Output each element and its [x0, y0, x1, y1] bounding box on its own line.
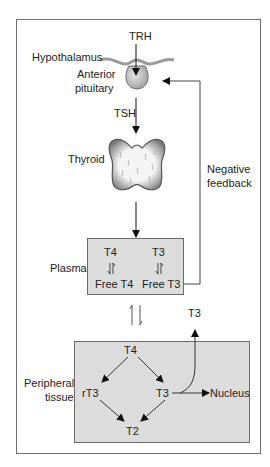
pituitary-label: pituitary — [75, 82, 114, 95]
plasma-free-t4: Free T4 — [95, 278, 133, 291]
peripheral-label: Peripheral — [24, 377, 74, 390]
nucleus-label: Nucleus — [210, 387, 250, 400]
anterior-label: Anterior — [77, 68, 116, 81]
plasma-t4-equilibrium — [108, 263, 115, 274]
plasma-t3: T3 — [152, 246, 165, 259]
thyroid-label: Thyroid — [68, 153, 105, 166]
t3-export-label: T3 — [188, 307, 201, 320]
rt3-to-t2-arrow — [100, 400, 124, 421]
negative-label: Negative — [207, 163, 250, 176]
hypothalamus-label: Hypothalamus — [32, 51, 102, 64]
plasma-label: Plasma — [50, 262, 87, 275]
feedback-label: feedback — [207, 177, 252, 190]
tissue-label: tissue — [45, 391, 74, 404]
tsh-label: TSH — [114, 107, 136, 120]
plasma-t4: T4 — [104, 246, 117, 259]
t3-export-arrow — [180, 330, 195, 393]
peripheral-t3: T3 — [156, 387, 169, 400]
plasma-t3-equilibrium — [156, 263, 163, 274]
t3-to-t2-arrow — [141, 400, 165, 421]
peripheral-t2: T2 — [126, 425, 139, 438]
t4-to-t3-arrow — [138, 357, 163, 382]
plasma-free-t3: Free T3 — [142, 278, 180, 291]
peripheral-rt3: rT3 — [82, 387, 99, 400]
trh-label: TRH — [129, 30, 152, 43]
t4-to-rt3-arrow — [102, 357, 128, 382]
peripheral-t4: T4 — [124, 344, 137, 357]
